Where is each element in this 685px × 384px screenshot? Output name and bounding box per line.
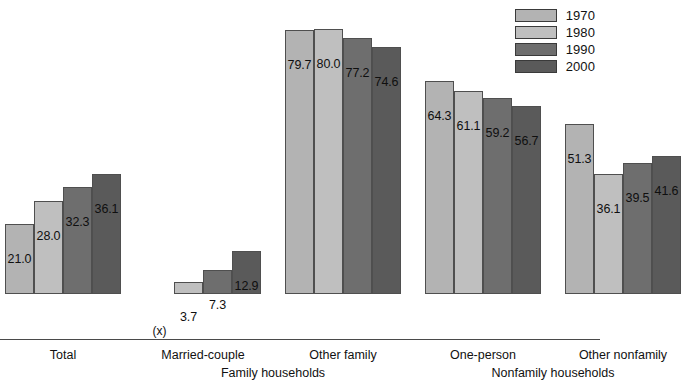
- category-label-other-family: Other family: [273, 349, 413, 362]
- bar: [623, 163, 652, 294]
- group-label-nonfamily-households: Nonfamily households: [463, 367, 643, 380]
- category-label-other-nonfamily: Other nonfamily: [553, 349, 685, 362]
- bar-na-marker: (x): [145, 325, 174, 337]
- bar: [34, 201, 63, 294]
- bar-value-label: 56.7: [508, 135, 545, 148]
- bar-value-label: 36.1: [590, 203, 627, 216]
- bar-value-label: 21.0: [1, 253, 38, 266]
- bar-value-label: 7.3: [199, 299, 236, 312]
- bar-value-label: 28.0: [30, 230, 67, 243]
- bar-value-label: 74.6: [368, 76, 405, 89]
- bar: [652, 156, 681, 294]
- category-label-one-person: One-person: [413, 349, 553, 362]
- bar-value-label: 51.3: [561, 153, 598, 166]
- x-axis-baseline: [0, 339, 600, 340]
- bar-value-label: 36.1: [88, 203, 125, 216]
- bar-value-label: 3.7: [170, 311, 207, 324]
- category-label-total: Total: [0, 349, 133, 362]
- group-label-family-households: Family households: [183, 367, 363, 380]
- category-label-married-couple: Married-couple: [133, 349, 273, 362]
- bar-value-label: 32.3: [59, 216, 96, 229]
- plot-area: 21.028.032.336.1(x)3.77.312.979.780.077.…: [0, 0, 600, 339]
- bar-value-label: 12.9: [228, 280, 265, 293]
- bar: [174, 282, 203, 294]
- bar: [92, 174, 121, 294]
- bar-value-label: 41.6: [648, 185, 685, 198]
